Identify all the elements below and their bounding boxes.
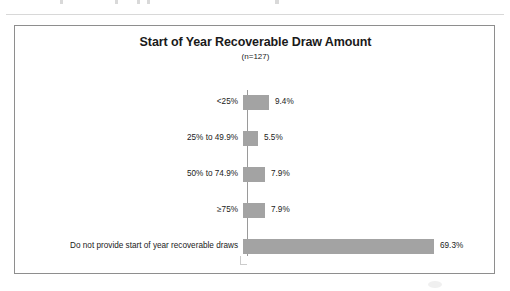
scan-artifact-text-line xyxy=(0,0,510,10)
chart-title: Start of Year Recoverable Draw Amount xyxy=(15,35,496,49)
bar-segment xyxy=(243,167,265,182)
bar-category-label: <25% xyxy=(15,97,243,107)
chart-subtitle-sample-size: (n=127) xyxy=(15,52,496,61)
bar-row: 50% to 74.9% 7.9% xyxy=(15,156,496,192)
bar-row: Do not provide start of year recoverable… xyxy=(15,228,496,264)
chart-frame: Start of Year Recoverable Draw Amount (n… xyxy=(14,25,495,274)
bar-value-label: 5.5% xyxy=(258,133,283,143)
scan-artifact-smudge xyxy=(428,281,442,288)
bar-track: 9.4% xyxy=(243,84,496,120)
bar-value-label: 69.3% xyxy=(434,241,463,251)
bar-track: 5.5% xyxy=(243,120,496,156)
scan-artifact-rule xyxy=(6,14,504,15)
bar-segment xyxy=(243,203,265,218)
bar-track: 7.9% xyxy=(243,156,496,192)
bar-track: 7.9% xyxy=(243,192,496,228)
scan-artifact-mark xyxy=(240,264,247,265)
bar-category-label: 50% to 74.9% xyxy=(15,169,243,179)
bar-row: 25% to 49.9% 5.5% xyxy=(15,120,496,156)
bar-segment xyxy=(243,239,434,254)
bar-category-label: Do not provide start of year recoverable… xyxy=(15,241,243,251)
bar-value-label: 9.4% xyxy=(269,97,294,107)
chart-plot-area: <25% 9.4% 25% to 49.9% 5.5% 50% to 74.9%… xyxy=(15,84,496,264)
bar-category-label: 25% to 49.9% xyxy=(15,133,243,143)
bar-row: ≥75% 7.9% xyxy=(15,192,496,228)
bar-category-label: ≥75% xyxy=(15,205,243,215)
bar-segment xyxy=(243,131,258,146)
bar-row: <25% 9.4% xyxy=(15,84,496,120)
bar-value-label: 7.9% xyxy=(265,205,290,215)
bar-segment xyxy=(243,95,269,110)
bar-track: 69.3% xyxy=(243,228,496,264)
bar-value-label: 7.9% xyxy=(265,169,290,179)
